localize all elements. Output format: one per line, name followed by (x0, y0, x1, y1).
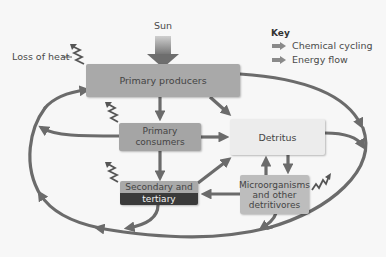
heat-zigzag-icon (105, 102, 118, 122)
arrow-bottom (98, 227, 272, 237)
arrow-producers-to-right (240, 74, 361, 125)
node-primary-producers: Primary producers (86, 64, 240, 97)
arrow-detritus-to-right (325, 133, 363, 146)
arrow-secondary-to-detritus (198, 160, 228, 183)
node-primary-consumers: Primary consumers (119, 123, 201, 151)
heat-loss-label: Loss of heat (12, 51, 69, 62)
node-secondary-tertiary-consumers: Secondary and tertiary consumers (120, 181, 198, 205)
heat-zigzag-icon (105, 162, 118, 182)
key-item-label: Energy flow (292, 54, 348, 65)
node-detritus-label: Detritus (258, 132, 296, 143)
arrow-consumers-to-left (42, 128, 120, 136)
arrow-right-icon (272, 42, 286, 50)
arrow-secondary-to-bottom (128, 205, 158, 228)
node-micro-line1: Microorganisms (239, 180, 310, 190)
node-detritus: Detritus (230, 119, 325, 155)
node-secondary-label: Secondary and (120, 181, 198, 193)
arrow-left-to-producers (45, 90, 86, 108)
key-title: Key (271, 28, 290, 38)
node-primary-consumers-label: Primary consumers (119, 126, 201, 148)
arrow-producers-to-detritus (210, 97, 228, 113)
key-item-label: Chemical cycling (292, 40, 373, 51)
node-primary-producers-label: Primary producers (119, 75, 206, 86)
key-item-chemical-cycling: Chemical cycling (272, 40, 373, 51)
node-tertiary-label: tertiary consumers (120, 193, 198, 205)
heat-zigzag-icon (312, 173, 331, 190)
key-item-energy-flow: Energy flow (272, 54, 348, 65)
arrow-right-icon (272, 56, 286, 64)
node-micro-line2: and other (253, 190, 297, 200)
arrow-left-side (30, 108, 45, 196)
node-microorganisms-detritivores: Microorganisms and other detritivores (240, 175, 309, 214)
node-micro-line3: detritivores (249, 200, 301, 210)
arrow-bottom-left (40, 194, 100, 228)
sun-label: Sun (154, 20, 172, 31)
heat-zigzag-icon (70, 44, 84, 64)
